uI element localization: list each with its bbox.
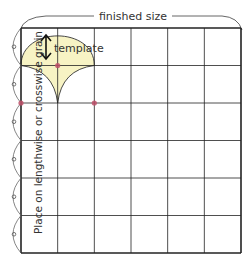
scallop-arc	[13, 28, 21, 66]
template-label: template	[54, 42, 104, 55]
scallop-arc	[13, 178, 21, 216]
finished-size-label: finished size	[99, 10, 167, 23]
marker-dot	[18, 100, 23, 105]
marker-dot	[92, 100, 97, 105]
scallop-arc	[13, 216, 21, 254]
marker-dot	[55, 63, 60, 68]
quilt-template-diagram: finished size template Place on lengthwi…	[0, 0, 252, 268]
scallop-arc	[13, 66, 21, 104]
scallop-edge	[12, 28, 21, 253]
scallop-arc	[13, 103, 21, 141]
scallop-arc	[13, 141, 21, 179]
grain-label: Place on lengthwise or crosswise grain	[32, 31, 44, 234]
